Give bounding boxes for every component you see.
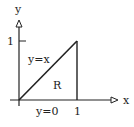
diagonal-label: y=x	[27, 53, 50, 66]
diagonal-boundary	[19, 41, 77, 100]
region-diagram: y x 1 1 y=x R y=0	[0, 0, 134, 127]
x-tick-label: 1	[74, 105, 81, 118]
x-axis-arrow-icon	[111, 97, 118, 103]
y-axis-arrow-icon	[16, 20, 22, 27]
y-axis-label: y	[14, 3, 22, 16]
bottom-boundary-label: y=0	[35, 105, 58, 118]
region-label: R	[53, 79, 62, 92]
y-tick-label: 1	[7, 35, 14, 48]
x-axis-label: x	[123, 94, 130, 107]
